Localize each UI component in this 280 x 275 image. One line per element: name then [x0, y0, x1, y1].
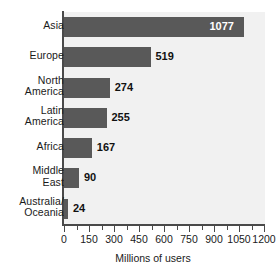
- x-tick-minor: [177, 226, 178, 230]
- bar-value-label: 519: [156, 50, 174, 62]
- category-label-line: America: [0, 86, 64, 98]
- x-tick-label: 600: [155, 233, 173, 246]
- category-label: LatinAmerica: [0, 105, 64, 128]
- bar: [64, 199, 68, 219]
- x-tick-minor: [127, 226, 128, 230]
- category-label-line: America: [0, 116, 64, 128]
- bar: [64, 108, 107, 128]
- bar-value-label: 255: [112, 111, 130, 123]
- x-tick-minor: [77, 226, 78, 230]
- x-tick-major: [139, 226, 140, 232]
- x-tick-major: [114, 226, 115, 232]
- x-tick-label: 450: [130, 233, 148, 246]
- category-label-line: Oceania: [0, 207, 64, 219]
- category-label-line: East: [0, 177, 64, 189]
- x-axis-title-text: Millions of users: [89, 252, 190, 264]
- x-tick-minor: [102, 226, 103, 230]
- x-tick-major: [89, 226, 90, 232]
- bar-row: NorthAmerica274: [0, 73, 280, 103]
- x-axis-tick-labels: 015030045060075090010501200: [0, 233, 280, 247]
- x-tick-major: [264, 226, 265, 232]
- x-tick-label: 300: [105, 233, 123, 246]
- bar: [64, 47, 151, 67]
- x-tick-label: 150: [80, 233, 98, 246]
- x-tick-major: [64, 226, 65, 232]
- category-label: NorthAmerica: [0, 75, 64, 98]
- bar-row: Australia/Oceania24: [0, 194, 280, 224]
- x-tick-minor: [152, 226, 153, 230]
- x-tick-label: 750: [180, 233, 198, 246]
- bar-row: Europe519: [0, 42, 280, 72]
- bar-value-label: 274: [115, 81, 133, 93]
- bar-value-label: 24: [73, 202, 85, 214]
- bar-value-label: 90: [84, 171, 96, 183]
- x-axis-title: Millions of users: [0, 252, 280, 264]
- x-tick-major: [239, 226, 240, 232]
- x-tick-minor: [252, 226, 253, 230]
- category-label: Africa: [0, 141, 64, 153]
- bar-chart: Asia1077Europe519NorthAmerica274LatinAme…: [0, 0, 280, 275]
- bar-value-label: 1077: [210, 20, 234, 32]
- category-label-line: Asia: [0, 20, 64, 32]
- x-tick-label: 1050: [227, 233, 250, 246]
- category-label: Australia/Oceania: [0, 196, 64, 219]
- category-label-line: Europe: [0, 50, 64, 62]
- category-label-line: Africa: [0, 141, 64, 153]
- bar-value-label: 167: [97, 141, 115, 153]
- x-tick-major: [189, 226, 190, 232]
- x-tick-major: [214, 226, 215, 232]
- x-tick-label: 900: [205, 233, 223, 246]
- x-tick-major: [164, 226, 165, 232]
- x-tick-minor: [227, 226, 228, 230]
- bar-row: Africa167: [0, 133, 280, 163]
- bar: [64, 138, 92, 158]
- category-label: Europe: [0, 50, 64, 62]
- x-tick-minor: [202, 226, 203, 230]
- x-tick-label: 1200: [252, 233, 275, 246]
- bar: [64, 78, 110, 98]
- bar-row: Asia1077: [0, 12, 280, 42]
- category-label: MiddleEast: [0, 165, 64, 188]
- bar: [64, 168, 79, 188]
- bar-rows: Asia1077Europe519NorthAmerica274LatinAme…: [0, 12, 280, 224]
- x-tick-label: 0: [61, 233, 67, 246]
- category-label: Asia: [0, 20, 64, 32]
- bar-row: MiddleEast90: [0, 163, 280, 193]
- bar-row: LatinAmerica255: [0, 103, 280, 133]
